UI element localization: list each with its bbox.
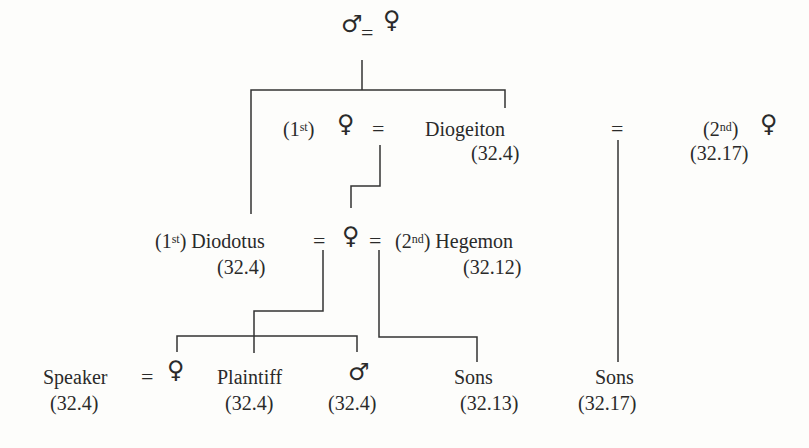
hegemon-ref: (32.12) — [463, 256, 521, 278]
diogeiton-ref: (32.4) — [471, 142, 519, 164]
speaker-name: Speaker — [43, 366, 107, 388]
plaintiff-name: Plaintiff — [217, 366, 282, 388]
connector-lines — [0, 0, 809, 448]
hegemon-label: (2nd) Hegemon — [395, 230, 513, 252]
marriage-sign: = — [611, 118, 623, 140]
marriage-sign: = — [313, 230, 325, 252]
plaintiff-ref: (32.4) — [225, 392, 273, 414]
female-icon: ♀ — [337, 112, 355, 136]
hegemon-sons-ref: (32.13) — [460, 392, 518, 414]
diodotus-label: (1st) Diodotus — [155, 230, 265, 252]
hegemon-sons-name: Sons — [454, 366, 493, 388]
second-wife-ref: (32.17) — [690, 142, 748, 164]
female-icon: ♀ — [760, 112, 778, 136]
female-icon: ♀ — [167, 358, 185, 382]
son-ref: (32.4) — [328, 392, 376, 414]
female-icon: ♀ — [342, 224, 360, 248]
speaker-ref: (32.4) — [50, 392, 98, 414]
second-wife-label: (2nd) — [703, 118, 738, 140]
marriage-sign: = — [372, 118, 384, 140]
marriage-sign: = — [361, 22, 373, 44]
diogeiton-name: Diogeiton — [425, 118, 505, 140]
diodotus-ref: (32.4) — [217, 256, 265, 278]
male-icon: ♂ — [348, 360, 370, 384]
first-wife-label: (1st) — [283, 118, 314, 140]
marriage-sign: = — [141, 366, 153, 388]
male-icon: ♂ — [341, 12, 363, 36]
marriage-sign: = — [369, 230, 381, 252]
diogeiton-sons-name: Sons — [595, 366, 634, 388]
diogeiton-sons-ref: (32.17) — [578, 392, 636, 414]
female-icon: ♀ — [383, 8, 401, 32]
